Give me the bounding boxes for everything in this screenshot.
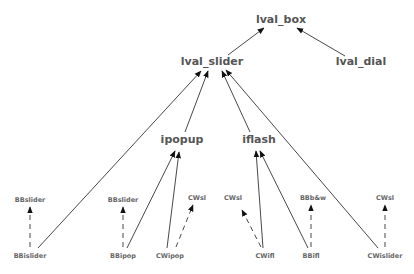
edge-CWipop-to-ipopup xyxy=(167,152,179,248)
node-cwsl-1: CWsl xyxy=(188,194,206,202)
edge-CWislider-to-lval_slider xyxy=(226,70,378,248)
node-bbslider-2: BBslider xyxy=(108,196,139,204)
node-iflash: iflash xyxy=(242,133,276,146)
edge-lval_dial-to-lval_box xyxy=(297,28,345,56)
edge-CWifl-to-iflash xyxy=(256,151,263,248)
node-ipopup: ipopup xyxy=(161,133,204,146)
edge-iflash-to-lval_slider xyxy=(222,71,250,132)
edge-CWifl-to-CWsl xyxy=(242,210,261,247)
node-cwislider: CWislider xyxy=(368,252,403,260)
node-bbslider-1: BBslider xyxy=(15,196,46,204)
edge-ipopup-to-lval_slider xyxy=(185,71,208,132)
node-cwipop: CWipop xyxy=(156,252,184,260)
node-lval-slider: lval_slider xyxy=(181,55,243,68)
node-cwsl-3: CWsl xyxy=(376,194,394,202)
node-lval-box: lval_box xyxy=(256,13,306,26)
node-bbbw: BBb&w xyxy=(300,194,326,202)
node-bbipop: BBipop xyxy=(110,252,136,260)
node-cwifl: CWifl xyxy=(256,252,275,260)
node-lval-dial: lval_dial xyxy=(336,55,386,68)
edge-CWipop-to-CWsl xyxy=(176,205,193,247)
node-bbifl: BBifl xyxy=(303,252,320,260)
inheritance-diagram-edges xyxy=(0,0,414,274)
edge-BBislider-to-lval_slider xyxy=(38,71,201,248)
node-bbislider: BBislider xyxy=(14,252,47,260)
node-cwsl-2: CWsl xyxy=(224,194,242,202)
edge-lval_slider-to-lval_box xyxy=(228,28,264,55)
